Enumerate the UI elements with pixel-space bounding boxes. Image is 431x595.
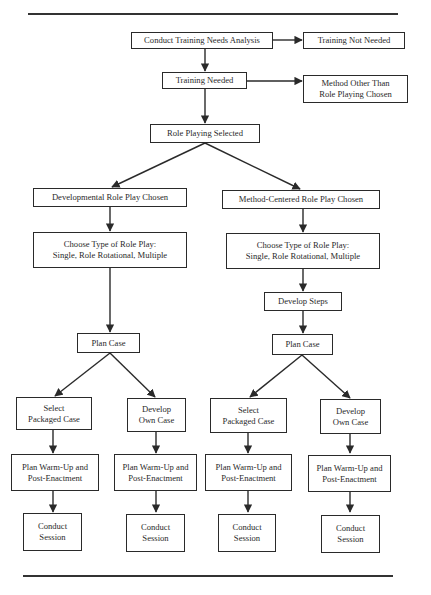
node-conduct-session-2: Conduct Session: [126, 514, 185, 552]
node-develop-own-case-1: Develop Own Case: [127, 398, 186, 432]
node-plan-case-left: Plan Case: [77, 333, 140, 353]
node-training-not-needed: Training Not Needed: [303, 32, 405, 49]
node-select-packaged-case-2: Select Packaged Case: [210, 398, 287, 433]
node-plan-warmup-1: Plan Warm-Up and Post-Enactment: [11, 454, 99, 491]
node-plan-warmup-3: Plan Warm-Up and Post-Enactment: [205, 454, 292, 491]
node-choose-type-right: Choose Type of Role Play: Single, Role R…: [226, 233, 380, 269]
node-choose-type-left: Choose Type of Role Play: Single, Role R…: [33, 232, 187, 268]
node-plan-case-right: Plan Case: [272, 334, 333, 355]
node-develop-own-case-2: Develop Own Case: [320, 399, 381, 434]
node-conduct-session-4: Conduct Session: [321, 515, 380, 553]
node-plan-warmup-2: Plan Warm-Up and Post-Enactment: [114, 454, 197, 491]
node-method-other-than-role-playing: Method Other Than Role Playing Chosen: [303, 75, 408, 103]
node-conduct-session-1: Conduct Session: [23, 513, 82, 551]
node-developmental-role-play: Developmental Role Play Chosen: [33, 188, 187, 207]
node-select-packaged-case-1: Select Packaged Case: [16, 397, 92, 430]
node-training-needed: Training Needed: [162, 72, 247, 89]
node-develop-steps: Develop Steps: [264, 292, 342, 311]
node-plan-warmup-4: Plan Warm-Up and Post-Enactment: [308, 455, 391, 492]
node-role-playing-selected: Role Playing Selected: [150, 124, 260, 143]
node-method-centered-role-play: Method-Centered Role Play Chosen: [222, 190, 380, 209]
node-conduct-session-3: Conduct Session: [218, 514, 276, 552]
node-conduct-training-needs-analysis: Conduct Training Needs Analysis: [131, 32, 273, 49]
